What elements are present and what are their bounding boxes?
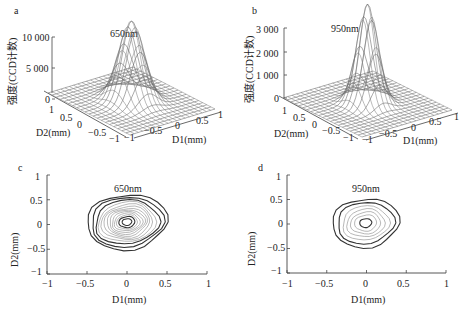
panel-a: a 强度(CCD计数) 10 000 5 000 0 650nm 1 0.5 0…	[0, 0, 229, 155]
panel-b: b 强度(CCD计数) 3 000 2 000 1 000 0 950nm 1 …	[229, 0, 458, 155]
surface-plot	[0, 0, 229, 155]
surface-plot	[229, 0, 458, 155]
contour-plot	[229, 155, 458, 312]
panel-d: d D2(mm) 1 0.5 0 −0.5 −1 950nm −1 −0.5 0…	[229, 155, 458, 312]
panel-c: c D2(mm) 1 0.5 0 −0.5 −1 650nm −1 −0.5 0…	[0, 155, 229, 312]
contour-plot	[0, 155, 229, 312]
